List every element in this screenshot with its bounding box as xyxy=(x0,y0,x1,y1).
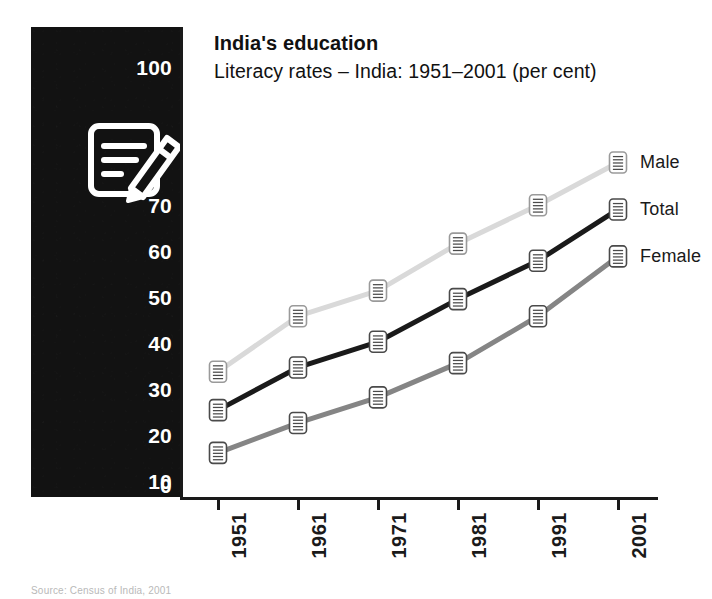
data-point-marker xyxy=(290,357,307,378)
x-axis-label-1991: 1991 xyxy=(548,512,571,559)
data-point-marker xyxy=(610,152,627,173)
data-point-marker xyxy=(530,250,547,271)
data-point-marker xyxy=(610,199,627,220)
series-line-male xyxy=(218,162,618,371)
x-axis-line xyxy=(180,497,658,500)
data-point-marker xyxy=(450,353,467,374)
data-point-marker xyxy=(370,280,387,301)
x-axis-label-1971: 1971 xyxy=(388,512,411,559)
x-tick-1991 xyxy=(537,497,540,510)
y-tick-70: 70 xyxy=(148,195,172,216)
data-point-marker xyxy=(530,195,547,216)
y-tick-60: 60 xyxy=(148,241,172,262)
data-point-marker xyxy=(530,306,547,327)
data-point-marker xyxy=(290,306,307,327)
x-tick-2001 xyxy=(617,497,620,510)
y-tick-0: 0 xyxy=(160,475,172,496)
dark-side-panel: 100 70 60 50 40 30 20 10 0 xyxy=(31,27,180,497)
series-label-total: Total xyxy=(640,199,679,220)
data-point-marker xyxy=(610,246,627,267)
series-lines-and-markers xyxy=(180,27,658,497)
y-tick-50: 50 xyxy=(148,287,172,308)
source-note: Source: Census of India, 2001 xyxy=(31,585,171,596)
data-point-marker xyxy=(370,331,387,352)
data-point-marker xyxy=(210,442,227,463)
y-axis-line xyxy=(180,27,183,497)
x-tick-1951 xyxy=(217,497,220,510)
series-line-female xyxy=(218,256,618,452)
series-label-male: Male xyxy=(640,152,680,173)
data-point-marker xyxy=(450,233,467,254)
y-tick-100: 100 xyxy=(136,57,172,78)
data-point-marker xyxy=(370,387,387,408)
x-tick-1971 xyxy=(377,497,380,510)
literacy-rates-chart-figure: 100 70 60 50 40 30 20 10 0 India's educa… xyxy=(0,0,712,599)
x-axis-label-2001: 2001 xyxy=(628,512,651,559)
plot-area xyxy=(180,27,658,497)
data-point-marker xyxy=(290,412,307,433)
series-label-female: Female xyxy=(640,246,701,267)
y-tick-20: 20 xyxy=(148,425,172,446)
data-point-marker xyxy=(450,289,467,310)
x-tick-1981 xyxy=(457,497,460,510)
data-point-marker xyxy=(210,400,227,421)
x-axis-label-1981: 1981 xyxy=(468,512,491,559)
x-axis-label-1961: 1961 xyxy=(308,512,331,559)
x-axis-label-1951: 1951 xyxy=(228,512,251,559)
x-tick-1961 xyxy=(297,497,300,510)
data-point-marker xyxy=(210,361,227,382)
y-tick-30: 30 xyxy=(148,379,172,400)
y-tick-40: 40 xyxy=(148,333,172,354)
